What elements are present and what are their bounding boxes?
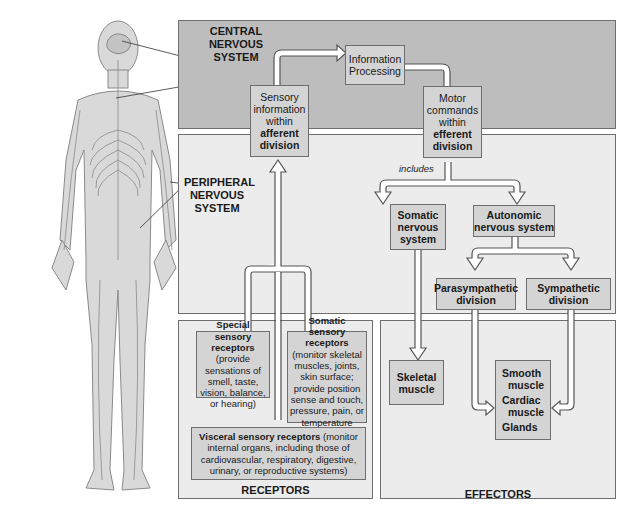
special-text: (provide sensations of smell, taste, vis… xyxy=(200,353,265,409)
somatic-line3: system xyxy=(400,233,436,245)
efferent-division-box: Motor commands within efferent division xyxy=(423,86,482,158)
information-processing-box: Information Processing xyxy=(345,45,405,85)
includes-label: includes xyxy=(399,163,434,174)
cardiac-line1: Cardiac xyxy=(502,394,541,406)
visceral-bold: Visceral sensory receptors xyxy=(199,431,320,442)
efferent-bold2: division xyxy=(433,140,473,152)
cardiac-line2: muscle xyxy=(502,406,544,418)
afferent-bold1: afferent xyxy=(260,127,299,139)
somatic-line1: Somatic xyxy=(398,209,439,221)
efferent-line3: within xyxy=(439,116,466,128)
afferent-division-box: Sensory information within afferent divi… xyxy=(250,85,309,157)
autonomic-line2: nervous system xyxy=(474,221,554,233)
receptors-title: RECEPTORS xyxy=(178,484,373,497)
visceral-sensory-receptors-box: Visceral sensory receptors (monitor inte… xyxy=(191,427,366,480)
somatic-sensory-receptors-box: Somatic sensory receptors (monitor skele… xyxy=(287,331,367,423)
sympathetic-line2: division xyxy=(549,294,589,306)
special-bold2: receptors xyxy=(211,342,254,353)
autonomic-nervous-system-box: Autonomic nervous system xyxy=(473,205,555,237)
smooth-line2: muscle xyxy=(502,379,544,391)
special-sensory-receptors-box: Special sensory receptors (provide sensa… xyxy=(196,331,270,398)
afferent-line1: Sensory xyxy=(260,91,299,103)
somatic-sensory-bold1: Somatic sensory xyxy=(309,315,346,337)
smooth-line1: Smooth xyxy=(502,367,541,379)
efferent-line1: Motor xyxy=(439,92,466,104)
somatic-sensory-bold2: receptors xyxy=(305,337,348,348)
parasympathetic-line2: division xyxy=(456,294,496,306)
glands-label: Glands xyxy=(502,421,538,433)
sympathetic-division-box: Sympathetic division xyxy=(526,278,611,310)
skeletal-muscle-box: Skeletal muscle xyxy=(389,360,444,405)
afferent-line2: information xyxy=(254,103,306,115)
processing-line1: Information xyxy=(349,53,402,65)
somatic-sensory-text: (monitor skeletal muscles, joints, skin … xyxy=(290,349,364,439)
effectors-title: EFFECTORS xyxy=(380,488,616,501)
efferent-bold1: efferent xyxy=(433,128,472,140)
parasympathetic-division-box: Parasympathetic division xyxy=(436,278,516,310)
somatic-line2: nervous xyxy=(398,221,439,233)
special-bold1: Special sensory xyxy=(215,319,251,341)
skeletal-line2: muscle xyxy=(398,383,434,395)
somatic-nervous-system-box: Somatic nervous system xyxy=(390,204,446,250)
sympathetic-line1: Sympathetic xyxy=(537,282,599,294)
afferent-bold2: division xyxy=(260,139,300,151)
parasympathetic-line1: Parasympathetic xyxy=(434,282,518,294)
smooth-cardiac-glands-box: Smooth muscle Cardiac muscle Glands xyxy=(495,360,551,440)
processing-line2: Processing xyxy=(349,65,401,77)
autonomic-line1: Autonomic xyxy=(487,209,542,221)
efferent-line2: commands xyxy=(427,104,478,116)
skeletal-line1: Skeletal xyxy=(397,371,437,383)
afferent-line3: within xyxy=(266,115,293,127)
